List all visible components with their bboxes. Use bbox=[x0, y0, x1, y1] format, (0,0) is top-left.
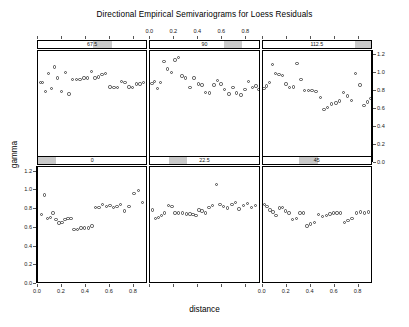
y-tick-label: 0.8 bbox=[15, 205, 32, 211]
data-point bbox=[127, 205, 130, 208]
x-tick bbox=[286, 36, 287, 39]
y-tick-label: 0.6 bbox=[377, 105, 394, 111]
data-point bbox=[211, 204, 214, 207]
data-point bbox=[53, 65, 56, 68]
x-tick-label: 0.2 bbox=[166, 28, 180, 34]
data-point bbox=[367, 210, 370, 213]
data-point bbox=[226, 206, 229, 209]
data-point bbox=[302, 211, 305, 214]
x-tick bbox=[61, 36, 62, 39]
data-point bbox=[108, 85, 111, 88]
data-point bbox=[101, 203, 104, 206]
data-point bbox=[287, 211, 290, 214]
x-tick-label: 0.2 bbox=[279, 288, 293, 294]
data-point bbox=[69, 217, 72, 220]
strip-label: 90 bbox=[150, 41, 258, 48]
x-tick bbox=[133, 36, 134, 39]
data-point bbox=[234, 201, 237, 204]
chart-title: Directional Empirical Semivariograms for… bbox=[0, 10, 409, 19]
x-tick bbox=[310, 284, 311, 287]
data-point bbox=[257, 88, 260, 91]
x-tick bbox=[149, 284, 150, 287]
data-point bbox=[313, 221, 316, 224]
data-point bbox=[49, 216, 52, 219]
data-point bbox=[212, 83, 215, 86]
data-point bbox=[90, 224, 93, 227]
data-point bbox=[223, 88, 226, 91]
data-point bbox=[250, 206, 253, 209]
x-tick bbox=[334, 36, 335, 39]
panel-112-5 bbox=[262, 50, 372, 162]
x-tick-label: 0.4 bbox=[303, 288, 317, 294]
x-tick-label: 0.4 bbox=[190, 28, 204, 34]
x-tick bbox=[221, 36, 222, 39]
data-point bbox=[363, 211, 366, 214]
x-axis-label: distance bbox=[0, 305, 409, 314]
data-point bbox=[281, 74, 284, 77]
data-point bbox=[350, 99, 353, 102]
data-point bbox=[184, 76, 187, 79]
x-tick bbox=[197, 36, 198, 39]
x-tick-label: 0.6 bbox=[327, 288, 341, 294]
data-point bbox=[242, 204, 245, 207]
panel-67-5 bbox=[37, 50, 147, 162]
x-tick bbox=[85, 36, 86, 39]
data-point bbox=[295, 217, 298, 220]
data-point bbox=[90, 70, 93, 73]
y-tick-label: 0.2 bbox=[15, 261, 32, 267]
data-point bbox=[170, 205, 173, 208]
data-point bbox=[200, 83, 203, 86]
data-point bbox=[44, 90, 47, 93]
x-tick-label: 0.8 bbox=[126, 288, 140, 294]
data-point bbox=[181, 211, 184, 214]
panel-0 bbox=[37, 166, 147, 283]
x-tick bbox=[173, 284, 174, 287]
data-point bbox=[64, 71, 67, 74]
data-point bbox=[321, 215, 324, 218]
x-tick bbox=[133, 284, 134, 287]
data-point bbox=[173, 58, 176, 61]
panel-strip-0: 0 bbox=[37, 156, 147, 165]
data-point bbox=[60, 90, 63, 93]
y-tick bbox=[33, 283, 36, 284]
data-point bbox=[51, 211, 54, 214]
data-point bbox=[137, 189, 140, 192]
panel-strip-112-5: 112.5 bbox=[262, 40, 372, 49]
y-tick-label: 1.2 bbox=[377, 51, 394, 57]
y-tick-label: 0.6 bbox=[15, 224, 32, 230]
data-point bbox=[86, 76, 89, 79]
data-point bbox=[299, 78, 302, 81]
data-point bbox=[334, 101, 337, 104]
data-point bbox=[188, 86, 191, 89]
data-point bbox=[219, 82, 222, 85]
data-point bbox=[346, 219, 349, 222]
data-point bbox=[60, 221, 63, 224]
x-tick bbox=[37, 36, 38, 39]
data-point bbox=[354, 72, 357, 75]
data-point bbox=[362, 104, 365, 107]
data-point bbox=[50, 87, 53, 90]
panel-22-5 bbox=[149, 166, 259, 283]
data-point bbox=[303, 89, 306, 92]
y-tick bbox=[373, 126, 376, 127]
x-tick bbox=[85, 284, 86, 287]
data-point bbox=[43, 193, 46, 196]
x-tick bbox=[245, 36, 246, 39]
x-tick-label: 0.0 bbox=[142, 28, 156, 34]
strip-label: 45 bbox=[263, 157, 371, 164]
data-point bbox=[204, 211, 207, 214]
y-tick-label: 0.0 bbox=[377, 159, 394, 165]
data-point bbox=[119, 203, 122, 206]
data-point bbox=[237, 207, 240, 210]
data-point bbox=[295, 62, 298, 65]
y-tick-label: 1.0 bbox=[377, 69, 394, 75]
x-tick bbox=[262, 36, 263, 39]
x-tick-label: 0.8 bbox=[351, 288, 365, 294]
x-tick bbox=[221, 284, 222, 287]
data-point bbox=[204, 91, 207, 94]
x-tick bbox=[358, 284, 359, 287]
data-point bbox=[317, 213, 320, 216]
y-tick bbox=[373, 72, 376, 73]
data-point bbox=[231, 86, 234, 89]
data-point bbox=[159, 81, 162, 84]
